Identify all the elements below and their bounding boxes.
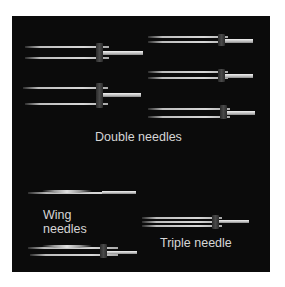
wing-needles-label-line1: Wing xyxy=(43,208,71,222)
wing-needles-label-line2: needles xyxy=(43,222,87,236)
double-needles-label: Double needles xyxy=(95,130,182,144)
triple-needle-label: Triple needle xyxy=(160,236,232,250)
needle-photo-panel: Double needles Wing needles Triple needl… xyxy=(12,16,270,272)
